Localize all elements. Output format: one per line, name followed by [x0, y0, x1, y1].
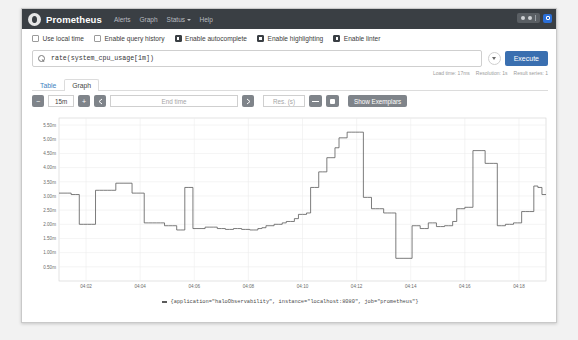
option-label: Enable highlighting	[268, 35, 324, 42]
svg-text:04:16: 04:16	[459, 284, 471, 289]
svg-text:0.50m: 0.50m	[43, 265, 56, 270]
query-options-row: Use local time Enable query history Enab…	[22, 29, 556, 47]
svg-text:5.50m: 5.50m	[43, 123, 56, 128]
stacked-chart-icon[interactable]	[326, 95, 339, 107]
checkbox-use-local-time[interactable]	[32, 35, 39, 42]
svg-text:04:12: 04:12	[351, 284, 363, 289]
option-enable-autocomplete[interactable]: Enable autocomplete	[175, 35, 247, 42]
increase-range-button[interactable]: +	[78, 95, 90, 107]
checkbox-enable-highlighting[interactable]	[257, 35, 264, 42]
close-icon[interactable]	[535, 15, 536, 21]
nav-link-graph[interactable]: Graph	[140, 16, 158, 23]
query-expression[interactable]: rate(system_cpu_usage[1m])	[51, 55, 154, 62]
graph-panel: 5.50m5.00m4.50m4.00m3.50m3.00m2.50m2.00m…	[32, 113, 548, 293]
svg-text:04:06: 04:06	[189, 284, 201, 289]
end-time-input[interactable]: End time	[110, 95, 238, 107]
show-exemplars-button[interactable]: Show Exemplars	[348, 95, 407, 107]
search-icon	[38, 55, 45, 62]
svg-text:04:02: 04:02	[80, 284, 92, 289]
query-stats: Load time: 17ms Resolution: 1s Result se…	[433, 70, 548, 76]
svg-text:1.50m: 1.50m	[43, 236, 56, 241]
svg-text:3.00m: 3.00m	[43, 194, 56, 199]
option-enable-query-history[interactable]: Enable query history	[94, 35, 165, 42]
chart-legend: {application="haloObservability", instan…	[32, 299, 548, 305]
execute-options-button[interactable]	[488, 52, 501, 65]
chevron-down-icon	[187, 19, 191, 21]
svg-text:2.00m: 2.00m	[43, 222, 56, 227]
query-row: rate(system_cpu_usage[1m]) Execute Load …	[22, 47, 556, 69]
execute-button[interactable]: Execute	[505, 51, 548, 66]
minimize-icon[interactable]	[521, 16, 525, 20]
nav-link-status[interactable]: Status	[167, 16, 191, 23]
load-time-stat: Load time: 17ms	[433, 70, 470, 76]
tab-table[interactable]: Table	[32, 79, 64, 91]
window-buttons-group[interactable]	[517, 13, 540, 23]
checkbox-enable-linter[interactable]	[333, 35, 340, 42]
execute-group: Execute	[488, 51, 548, 66]
option-enable-highlighting[interactable]: Enable highlighting	[257, 35, 323, 42]
restore-window-icon[interactable]	[543, 14, 552, 23]
window-controls	[517, 13, 552, 23]
svg-text:04:08: 04:08	[243, 284, 255, 289]
svg-text:04:04: 04:04	[134, 284, 146, 289]
checkbox-enable-autocomplete[interactable]	[175, 35, 182, 42]
svg-text:2.50m: 2.50m	[43, 208, 56, 213]
option-use-local-time[interactable]: Use local time	[32, 35, 84, 42]
checkbox-enable-query-history[interactable]	[94, 35, 101, 42]
svg-text:1.00m: 1.00m	[43, 250, 56, 255]
legend-color-swatch	[162, 301, 167, 303]
chevron-left-icon	[98, 98, 103, 105]
nav-links: Alerts Graph Status Help	[114, 16, 213, 23]
maximize-icon[interactable]	[528, 16, 532, 20]
decrease-range-button[interactable]: −	[32, 95, 44, 107]
result-series-stat: Result series: 1	[514, 70, 548, 76]
option-enable-linter[interactable]: Enable linter	[333, 35, 380, 42]
nav-link-help[interactable]: Help	[200, 16, 213, 23]
option-label: Enable autocomplete	[185, 35, 247, 42]
step-forward-button[interactable]	[242, 95, 254, 107]
timeseries-chart[interactable]: 5.50m5.00m4.50m4.00m3.50m3.00m2.50m2.00m…	[32, 113, 550, 295]
step-back-button[interactable]	[94, 95, 106, 107]
range-input[interactable]: 15m	[48, 95, 74, 107]
query-input[interactable]: rate(system_cpu_usage[1m])	[32, 50, 482, 67]
svg-text:04:18: 04:18	[513, 284, 525, 289]
legend-series-label[interactable]: {application="haloObservability", instan…	[171, 299, 419, 305]
svg-text:3.50m: 3.50m	[43, 180, 56, 185]
svg-text:4.50m: 4.50m	[43, 151, 56, 156]
resolution-input[interactable]: Res. (s)	[263, 95, 305, 107]
nav-link-alerts[interactable]: Alerts	[114, 16, 131, 23]
screenshot-root: Prometheus Alerts Graph Status Help Use	[0, 0, 578, 340]
svg-text:5.00m: 5.00m	[43, 137, 56, 142]
line-chart-icon[interactable]	[309, 95, 322, 107]
option-label: Enable query history	[104, 35, 164, 42]
chevron-down-icon	[492, 57, 496, 60]
tab-graph[interactable]: Graph	[64, 79, 99, 91]
result-tabs: Table Graph	[32, 77, 548, 91]
navbar: Prometheus Alerts Graph Status Help	[22, 9, 556, 29]
svg-text:04:10: 04:10	[297, 284, 309, 289]
svg-text:04:14: 04:14	[405, 284, 417, 289]
graph-controls: − 15m + End time Res. (s) Show Exemplars	[22, 91, 556, 110]
chevron-right-icon	[246, 98, 251, 105]
brand-title: Prometheus	[46, 14, 102, 25]
prometheus-flame-icon	[28, 13, 41, 26]
prometheus-window: Prometheus Alerts Graph Status Help Use	[21, 8, 557, 323]
option-label: Use local time	[43, 35, 84, 42]
option-label: Enable linter	[344, 35, 381, 42]
svg-text:4.00m: 4.00m	[43, 165, 56, 170]
resolution-stat: Resolution: 1s	[476, 70, 508, 76]
